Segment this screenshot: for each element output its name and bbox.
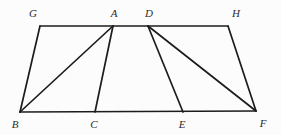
label-F: F: [259, 117, 267, 129]
label-A: A: [110, 7, 118, 19]
label-E: E: [178, 118, 186, 130]
geometry-figure: GADHBCEF: [0, 0, 281, 135]
edge-BF: [20, 111, 256, 112]
figure-background: [0, 0, 281, 135]
label-D: D: [144, 7, 153, 19]
label-B: B: [12, 118, 19, 130]
label-H: H: [231, 7, 241, 19]
label-G: G: [29, 7, 37, 19]
figure-canvas: GADHBCEF: [0, 0, 281, 135]
label-C: C: [90, 118, 98, 130]
